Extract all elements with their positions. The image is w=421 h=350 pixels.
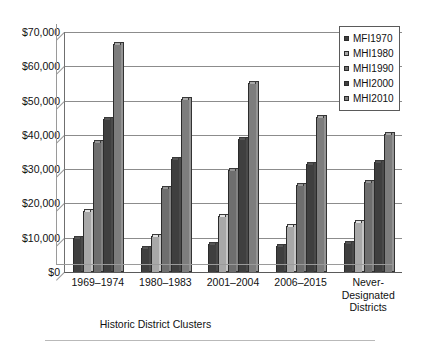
x-axis-depth-line	[56, 264, 394, 265]
bar	[286, 226, 295, 272]
legend-swatch-icon	[344, 81, 349, 86]
bar	[141, 248, 150, 272]
legend-item[interactable]: MFI1970	[344, 31, 394, 46]
legend-item-label: MHI1990	[353, 63, 394, 74]
bar-side-face	[256, 81, 259, 272]
legend-item-label: MFI1970	[353, 33, 392, 44]
bar	[151, 236, 160, 272]
legend-item[interactable]: MHI2000	[344, 76, 394, 91]
bar-top-face	[345, 241, 352, 244]
bar-top-face	[74, 236, 81, 239]
bar-chart: $0$10,000$20,000$30,000$40,000$50,000$60…	[0, 0, 421, 350]
bar	[316, 117, 325, 272]
bar-top-face	[219, 214, 226, 217]
bar-top-face	[94, 140, 101, 143]
bar-top-face	[385, 132, 392, 135]
bar	[113, 44, 122, 272]
y-axis-tick-label: $70,000	[2, 27, 60, 37]
bar	[228, 170, 237, 273]
legend-item-label: MHI2000	[353, 78, 394, 89]
bar	[171, 159, 180, 272]
bar-top-face	[287, 224, 294, 227]
bar-top-face	[84, 209, 91, 212]
bar	[296, 185, 305, 272]
bar-cluster	[132, 32, 200, 272]
chart-legend: MFI1970MHI1980MHI1990MHI2000MHI2010	[339, 26, 400, 111]
y-axis-tick-label: $40,000	[2, 130, 60, 140]
legend-item[interactable]: MHI1980	[344, 46, 394, 61]
bar	[384, 134, 393, 272]
bar-side-face	[324, 115, 327, 272]
bar-top-face	[172, 157, 179, 160]
bar-top-face	[239, 137, 246, 140]
y-axis-tick-label: $10,000	[2, 233, 60, 243]
x-axis-tick-label: 1980–1983	[132, 276, 200, 289]
bar-top-face	[209, 242, 216, 245]
legend-item-label: MHI2010	[353, 93, 394, 104]
bar-top-face	[365, 180, 372, 183]
legend-swatch-icon	[344, 66, 349, 71]
bar	[238, 139, 247, 272]
bar	[103, 119, 112, 272]
bar-top-face	[355, 220, 362, 223]
y-axis-tick-label: $20,000	[2, 198, 60, 208]
bar	[181, 99, 190, 272]
bar	[306, 164, 315, 272]
legend-item-label: MHI1980	[353, 48, 394, 59]
bar-top-face	[142, 246, 149, 249]
legend-swatch-icon	[344, 51, 349, 56]
bar	[364, 182, 373, 272]
y-axis-tick-label: $50,000	[2, 96, 60, 106]
y-axis-tick-label: $60,000	[2, 61, 60, 71]
y-axis-tick-label: $0	[2, 267, 60, 277]
bar-cluster	[199, 32, 267, 272]
legend-swatch-icon	[344, 96, 349, 101]
bar	[93, 142, 102, 272]
x-axis-tick-label: 2001–2004	[199, 276, 267, 289]
bar-top-face	[249, 81, 256, 84]
bar-top-face	[317, 115, 324, 118]
x-axis-line	[64, 272, 402, 273]
x-axis-tick-label: 1969–1974	[64, 276, 132, 289]
bar-top-face	[229, 168, 236, 171]
y-axis-line	[64, 32, 65, 272]
bar-side-face	[121, 42, 124, 272]
y-axis-tick-label: $30,000	[2, 164, 60, 174]
bar	[248, 83, 257, 272]
bar	[374, 162, 383, 272]
bar-top-face	[277, 244, 284, 247]
x-axis-tick-label: 2006–2015	[267, 276, 335, 289]
footer-divider	[45, 340, 375, 341]
bar-top-face	[307, 162, 314, 165]
bar-top-face	[162, 186, 169, 189]
bar-top-face	[297, 183, 304, 186]
bar-top-face	[375, 160, 382, 163]
bar	[276, 246, 285, 272]
bar-top-face	[104, 117, 111, 120]
bar-cluster	[267, 32, 335, 272]
x-axis-title-text: Historic District Clusters	[100, 318, 211, 330]
bar	[208, 244, 217, 272]
bar-top-face	[114, 42, 121, 45]
bar	[161, 188, 170, 272]
bar	[344, 243, 353, 272]
x-axis-title: Historic District Clusters	[0, 318, 421, 330]
y-axis-labels: $0$10,000$20,000$30,000$40,000$50,000$60…	[0, 0, 60, 350]
legend-swatch-icon	[344, 36, 349, 41]
bar	[83, 211, 92, 272]
bar	[73, 238, 82, 272]
bar-cluster	[64, 32, 132, 272]
bar-top-face	[152, 234, 159, 237]
bar-side-face	[189, 97, 192, 272]
x-axis-tick-label: Never- Designated Districts	[334, 276, 402, 314]
legend-item[interactable]: MHI1990	[344, 61, 394, 76]
bar-top-face	[182, 97, 189, 100]
legend-item[interactable]: MHI2010	[344, 91, 394, 106]
bar-side-face	[392, 132, 395, 272]
